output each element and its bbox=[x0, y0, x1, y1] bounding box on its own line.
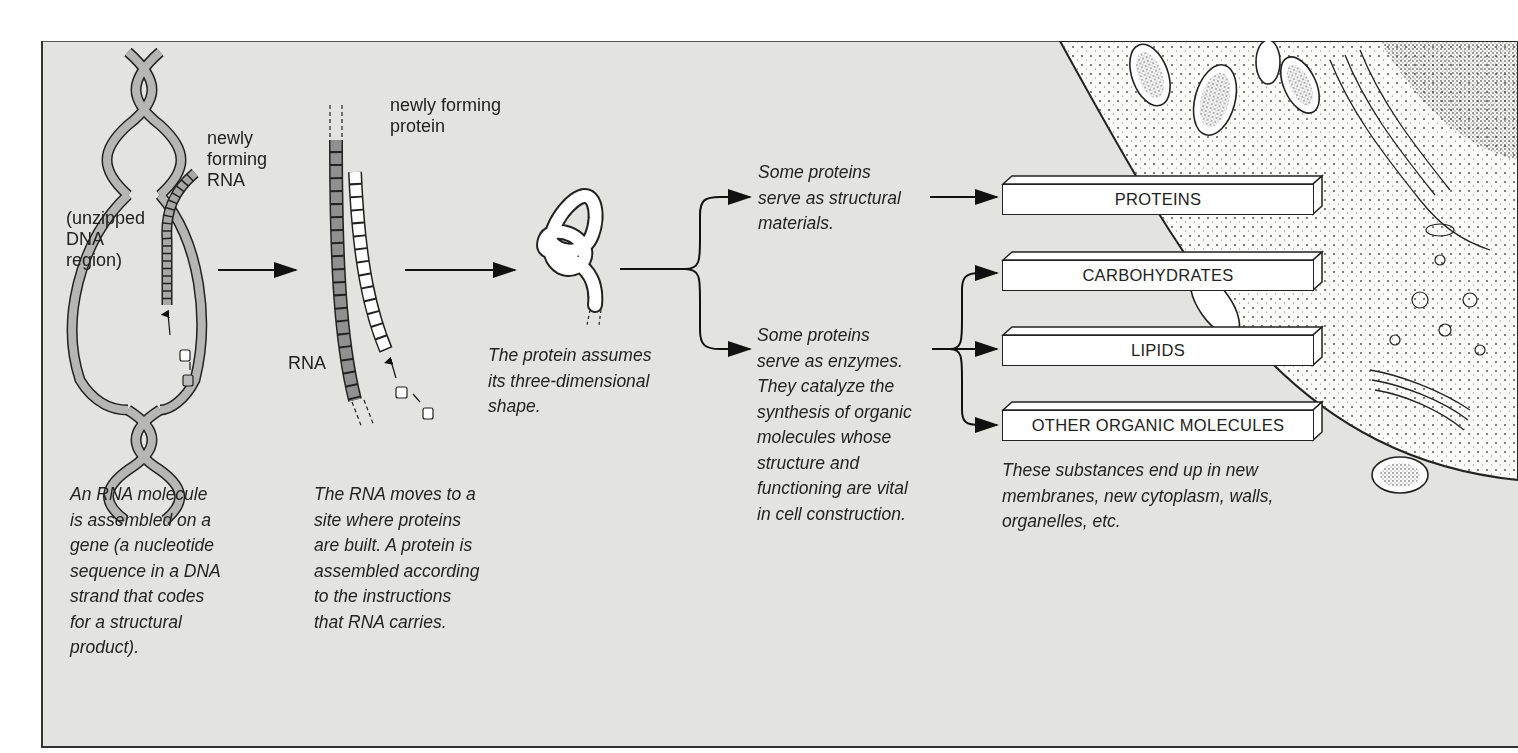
folded-protein bbox=[544, 196, 601, 325]
label-newly-forming-rna: newly forming RNA bbox=[207, 128, 267, 191]
dna-helix bbox=[72, 52, 201, 520]
label-unzipped-dna: (unzipped DNA region) bbox=[66, 208, 145, 271]
box-lipids: LIPIDS bbox=[1002, 335, 1314, 366]
label-newly-forming-protein: newly forming protein bbox=[390, 95, 501, 137]
caption-rna-moves: The RNA moves to a site where proteins a… bbox=[314, 482, 479, 635]
box-carbohydrates: CARBOHYDRATES bbox=[1002, 260, 1314, 291]
box-proteins: PROTEINS bbox=[1002, 184, 1314, 215]
caption-rna-assembly: An RNA molecule is assembled on a gene (… bbox=[70, 482, 221, 661]
rna-protein-strands bbox=[330, 105, 433, 428]
caption-substances: These substances end up in new membranes… bbox=[1002, 458, 1273, 535]
caption-enzymes: Some proteins serve as enzymes. They cat… bbox=[757, 323, 912, 527]
label-rna: RNA bbox=[288, 353, 326, 374]
caption-protein-shape: The protein assumes its three-dimensiona… bbox=[488, 343, 651, 420]
caption-structural: Some proteins serve as structural materi… bbox=[758, 160, 901, 237]
box-other-organic-molecules: OTHER ORGANIC MOLECULES bbox=[1002, 410, 1314, 441]
